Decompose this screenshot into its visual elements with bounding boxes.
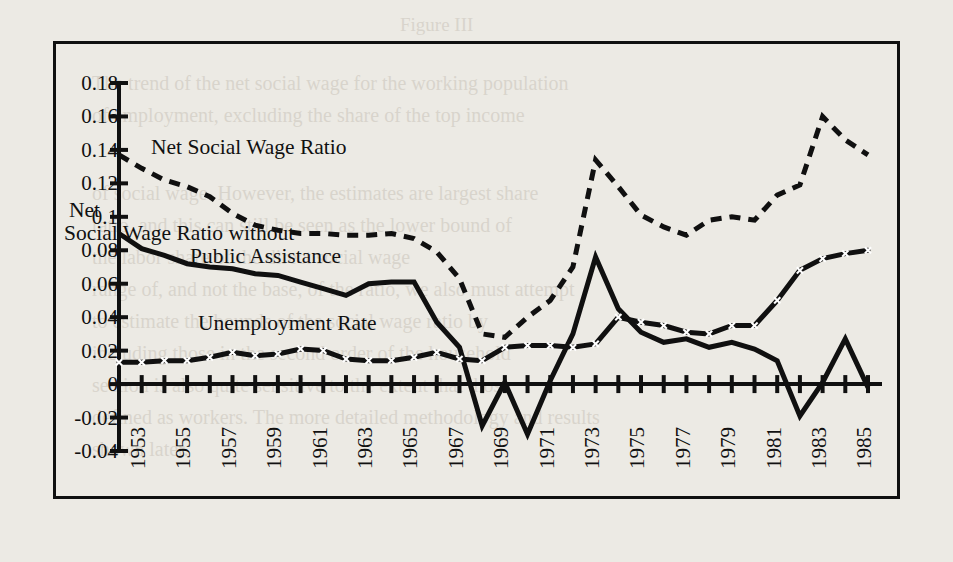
x-axis-tick-label: 1957	[219, 427, 240, 469]
x-axis-tick-label: 1965	[400, 427, 421, 469]
x-axis-tick-label: 1963	[355, 427, 376, 469]
figure-frame: 0.180.160.140.120.10.080.060.040.020-0.0…	[53, 41, 900, 499]
annotation-net-social-wage-ratio: Net Social Wage Ratio	[151, 136, 347, 159]
x-axis-tick-label: 1975	[627, 427, 648, 469]
x-axis-tick-label: 1981	[764, 427, 785, 469]
annotation-unemployment-rate: Unemployment Rate	[198, 312, 377, 335]
x-axis-tick-label: 1977	[673, 427, 694, 469]
x-axis-tick-label: 1979	[718, 427, 739, 469]
x-axis-tick-label: 1985	[854, 427, 875, 469]
x-axis-tick-label: 1967	[446, 427, 467, 469]
annotation-net-without-line2: Social Wage Ratio without	[64, 222, 294, 245]
annotation-net-without-line1: Net	[69, 199, 100, 222]
x-axis-tick-label: 1961	[310, 427, 331, 469]
x-axis-tick-label: 1971	[537, 427, 558, 469]
annotation-net-without-line3: Public Assistance	[190, 245, 341, 268]
bleed-line: Figure III	[400, 14, 473, 36]
x-axis-tick-label: 1959	[264, 427, 285, 469]
x-axis-labels: 1953195519571959196119631965196719691971…	[56, 44, 897, 496]
x-axis-tick-label: 1983	[809, 427, 830, 469]
x-axis-tick-label: 1973	[582, 427, 603, 469]
x-axis-tick-label: 1969	[491, 427, 512, 469]
x-axis-tick-label: 1955	[173, 427, 194, 469]
x-axis-tick-label: 1953	[128, 427, 149, 469]
